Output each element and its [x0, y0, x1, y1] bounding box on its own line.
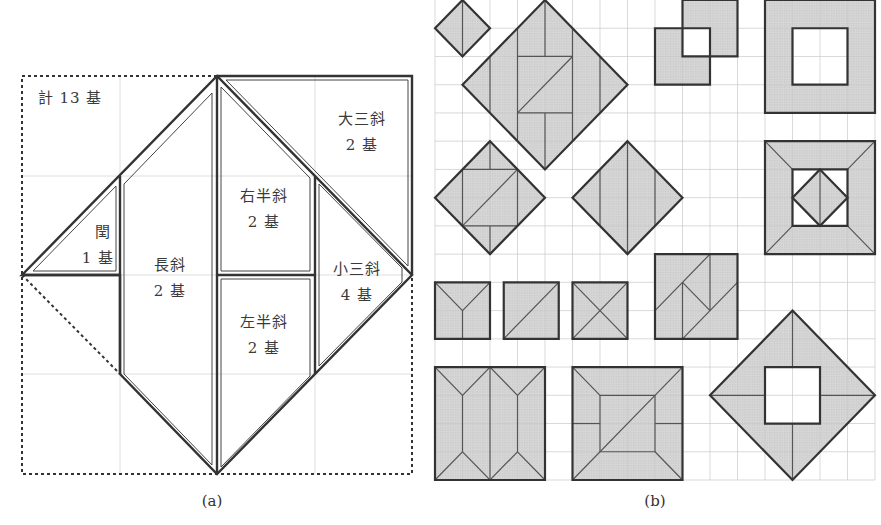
- piece-name: 左半斜: [240, 314, 288, 331]
- piece-name: 大三斜: [338, 111, 386, 128]
- piece-label-dai-sansha: 大三斜 2 基: [338, 111, 386, 154]
- piece-count: 2 基: [338, 137, 386, 154]
- piece-count: 2 基: [154, 283, 186, 300]
- piece-name: 長斜: [154, 257, 186, 274]
- piece-name: 閏: [82, 224, 114, 241]
- caption-b: (b): [644, 492, 665, 510]
- piece-name: 右半斜: [240, 188, 288, 205]
- piece-name: 小三斜: [333, 261, 381, 278]
- piece-label-u-hansha: 右半斜 2 基: [240, 188, 288, 231]
- figure-a: 計 13 基 大三斜 2 基 右半斜 2 基 閏 1 基 長斜 2 基 小三斜 …: [0, 0, 430, 525]
- piece-count: 4 基: [333, 287, 381, 304]
- piece-label-jun: 閏 1 基: [82, 224, 114, 267]
- piece-label-sho-sansha: 小三斜 4 基: [333, 261, 381, 304]
- piece-label-sa-hansha: 左半斜 2 基: [240, 314, 288, 357]
- total-label: 計 13 基: [38, 90, 103, 107]
- caption-a: (a): [202, 492, 223, 510]
- figure-b: (b): [430, 0, 881, 525]
- figure-b-drawing: [435, 0, 875, 480]
- piece-count: 2 基: [240, 340, 288, 357]
- piece-count: 2 基: [240, 214, 288, 231]
- piece-label-chosha: 長斜 2 基: [154, 257, 186, 300]
- piece-count: 1 基: [82, 250, 114, 267]
